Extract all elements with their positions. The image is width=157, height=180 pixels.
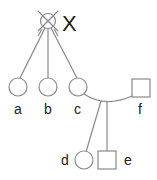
label-f: f	[138, 101, 142, 117]
individual-f	[132, 79, 150, 97]
marriage-line-c-f	[84, 94, 132, 102]
label-c: c	[74, 101, 81, 117]
individual-d	[75, 151, 93, 169]
line-x-a	[20, 28, 45, 78]
label-d: d	[61, 152, 69, 168]
label-a: a	[14, 101, 22, 117]
individual-e	[98, 151, 116, 169]
individual-x	[38, 11, 58, 31]
label-x: X	[62, 11, 77, 36]
label-e: e	[124, 152, 132, 168]
line-to-d	[86, 101, 101, 152]
individual-a	[9, 78, 27, 96]
individual-c	[69, 78, 87, 96]
pedigree-diagram: X a b c f d e	[0, 0, 157, 180]
individual-b	[39, 78, 57, 96]
label-b: b	[44, 101, 52, 117]
